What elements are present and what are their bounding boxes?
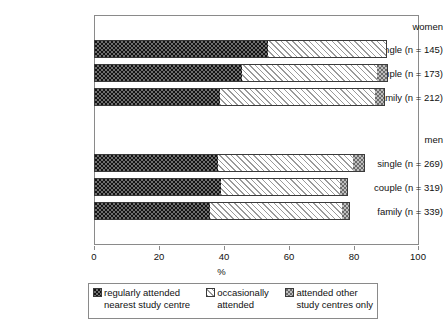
legend-label-other: attended other study centres only xyxy=(296,287,373,311)
group-label-men: men xyxy=(351,134,443,145)
stacked-bar-chart: women single (n = 145) couple (n = 173) … xyxy=(0,0,443,329)
bar-segment-regular xyxy=(94,178,221,196)
category-label-men-couple: couple (n = 319) xyxy=(351,182,443,193)
legend-label-regular: regularly attended nearest study centre xyxy=(104,287,190,311)
bar-segment-other xyxy=(375,88,385,106)
legend-item-other: attended other study centres only xyxy=(285,287,373,311)
bar-segment-occasional xyxy=(220,88,375,106)
bar-segment-other xyxy=(340,178,348,196)
bar-segment-occasional xyxy=(268,40,387,58)
x-tick-80 xyxy=(354,246,355,250)
group-label-women: women xyxy=(351,21,443,32)
legend-label-occasional: occasionally attended xyxy=(217,287,269,311)
legend-label-regular-line1: regularly attended xyxy=(104,287,180,298)
x-tick-label-20: 20 xyxy=(139,251,179,262)
x-tick-20 xyxy=(159,246,160,250)
legend-item-occasional: occasionally attended xyxy=(206,287,285,311)
bar-segment-other xyxy=(353,154,365,172)
bar-segment-other xyxy=(377,64,388,82)
bar-segment-occasional xyxy=(210,202,342,220)
legend-item-regular: regularly attended nearest study centre xyxy=(93,287,206,311)
x-tick-40 xyxy=(224,246,225,250)
bar-segment-other xyxy=(342,202,350,220)
legend-swatch-regular-icon xyxy=(93,288,102,297)
x-tick-label-40: 40 xyxy=(204,251,244,262)
bar-segment-regular xyxy=(94,64,242,82)
x-tick-label-100: 100 xyxy=(398,251,438,262)
bar-segment-regular xyxy=(94,202,210,220)
legend-label-occasional-line2: attended xyxy=(217,299,269,311)
legend-label-occasional-line1: occasionally xyxy=(217,287,269,298)
bar-segment-regular xyxy=(94,88,220,106)
x-axis-title: % xyxy=(0,266,443,277)
x-tick-60 xyxy=(289,246,290,250)
category-label-men-family: family (n = 339) xyxy=(351,206,443,217)
legend-label-other-line2: study centres only xyxy=(296,299,373,311)
bar-segment-regular xyxy=(94,154,218,172)
x-tick-100 xyxy=(418,246,419,250)
bar-segment-occasional xyxy=(218,154,353,172)
x-tick-0 xyxy=(94,246,95,250)
legend-label-other-line1: attended other xyxy=(296,287,357,298)
x-tick-label-60: 60 xyxy=(269,251,309,262)
bar-segment-occasional xyxy=(242,64,377,82)
bar-segment-regular xyxy=(94,40,268,58)
chart-legend: regularly attended nearest study centre … xyxy=(88,283,378,319)
legend-swatch-other-icon xyxy=(285,288,294,297)
x-tick-label-80: 80 xyxy=(334,251,374,262)
legend-label-regular-line2: nearest study centre xyxy=(104,299,190,311)
bar-segment-occasional xyxy=(221,178,340,196)
legend-swatch-occasional-icon xyxy=(206,288,215,297)
x-tick-label-0: 0 xyxy=(74,251,114,262)
